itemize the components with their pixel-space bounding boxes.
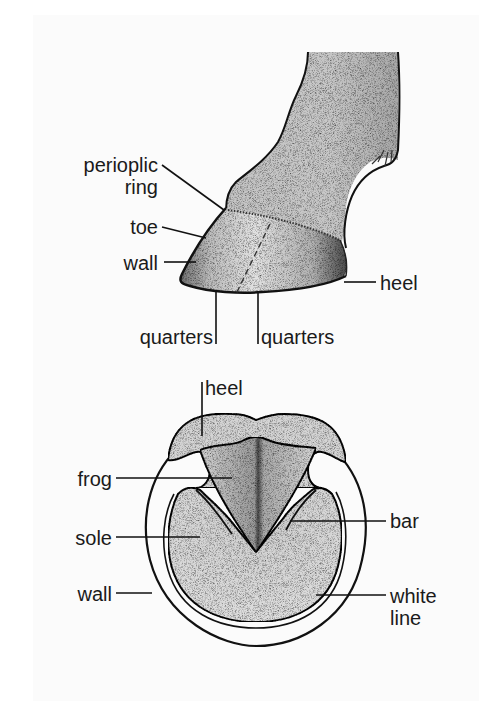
label-perioplic: perioplic bbox=[84, 154, 158, 176]
label-sole: sole bbox=[75, 527, 112, 549]
label-ring: ring bbox=[125, 176, 158, 198]
label-line: line bbox=[390, 607, 421, 629]
bottom-view-hoof bbox=[146, 414, 366, 646]
label-quarters-right: quarters bbox=[261, 326, 334, 348]
side-view-hoof bbox=[180, 52, 400, 294]
hoof-anatomy-diagram: perioplic ring toe wall heel quarters qu… bbox=[0, 0, 488, 714]
label-wall-bottom: wall bbox=[77, 583, 112, 605]
label-white: white bbox=[389, 585, 437, 607]
label-wall-side: wall bbox=[123, 252, 158, 274]
label-bar: bar bbox=[390, 510, 419, 532]
label-quarters-left: quarters bbox=[140, 326, 213, 348]
label-heel-bottom: heel bbox=[205, 377, 243, 399]
label-toe: toe bbox=[130, 216, 158, 238]
label-heel-side: heel bbox=[380, 272, 418, 294]
label-frog: frog bbox=[78, 468, 112, 490]
